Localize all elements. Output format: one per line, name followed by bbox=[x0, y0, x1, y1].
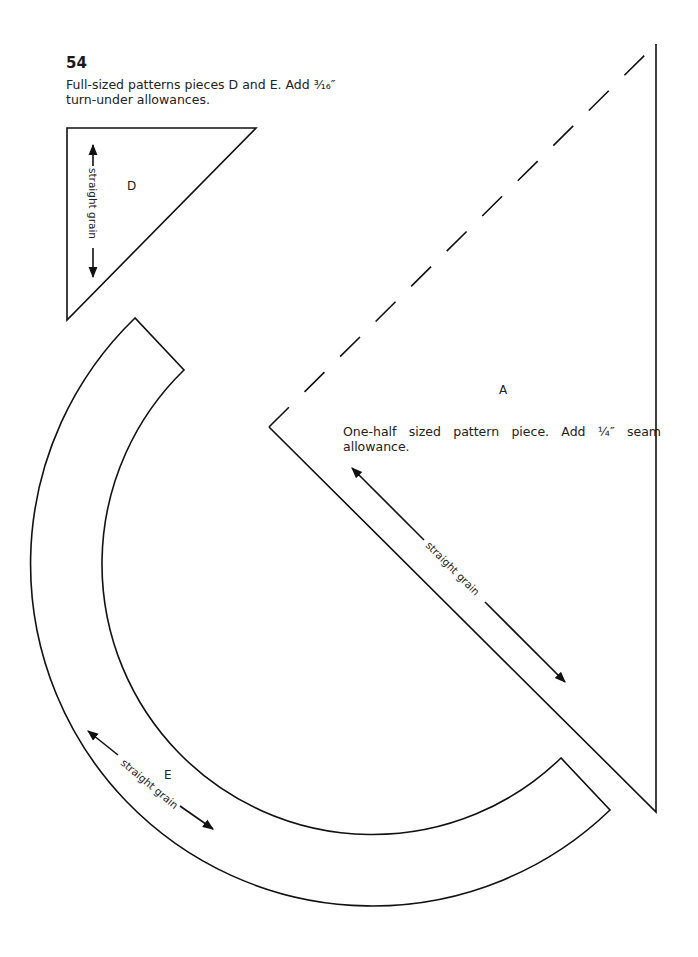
piece-a-outline bbox=[269, 44, 656, 812]
pattern-piece-e: E straight grain bbox=[31, 318, 610, 906]
arrow-up-left-icon bbox=[352, 468, 424, 540]
arrow-down-right-icon bbox=[180, 806, 213, 829]
piece-e-outline bbox=[31, 318, 610, 906]
piece-a-fold-line bbox=[269, 44, 656, 427]
piece-d-label: D bbox=[127, 179, 136, 193]
arrow-down-right-icon bbox=[485, 602, 565, 682]
pattern-piece-a: A straight grain bbox=[269, 44, 656, 812]
piece-d-grain-arrow: straight grain bbox=[87, 145, 99, 277]
piece-e-label: E bbox=[164, 768, 172, 782]
piece-d-grain-label: straight grain bbox=[87, 168, 99, 239]
arrow-up-left-icon bbox=[88, 731, 118, 755]
pattern-piece-d: D straight grain bbox=[67, 128, 256, 320]
pattern-drawing: D straight grain A straight grain E stra… bbox=[0, 0, 698, 957]
piece-a-label: A bbox=[499, 383, 508, 397]
piece-a-grain-arrow: straight grain bbox=[352, 468, 565, 682]
